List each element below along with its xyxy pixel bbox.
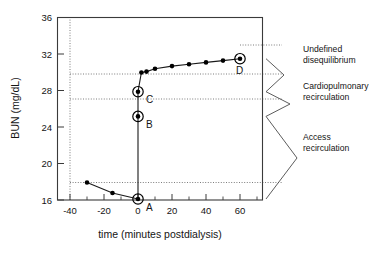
x-tick-label-0: 0 [135, 205, 140, 216]
marker-label-a: A [146, 202, 153, 213]
bracket-access-recirculation [266, 116, 297, 199]
y-tick-label-24: 24 [41, 122, 52, 133]
x-tick-label-minus40: -40 [63, 205, 77, 216]
annotation-undefined-disequilibrium-line1: Undefined [303, 44, 342, 54]
annotation-brackets [266, 59, 297, 199]
plot-frame [58, 18, 263, 201]
y-tick-label-32: 32 [41, 49, 52, 60]
y-axis-title: BUN (mg/dL) [9, 77, 21, 138]
marked-point-d: D [235, 54, 245, 77]
annotation-access-recirculation-line2: recirculation [303, 143, 350, 153]
y-axis-ticks [58, 18, 65, 201]
marker-label-c: C [146, 94, 153, 105]
x-tick-label-minus20: -20 [97, 205, 111, 216]
x-axis-ticks [70, 194, 257, 200]
guide-lines [70, 17, 282, 200]
annotation-access-recirculation-line1: Access [303, 132, 331, 142]
y-tick-label-36: 36 [41, 12, 52, 23]
data-point-markers [85, 58, 226, 195]
data-point [139, 70, 144, 75]
data-point [221, 58, 226, 63]
marker-dot [136, 89, 141, 94]
highlighted-points: A B C D [133, 54, 245, 214]
data-point [153, 67, 158, 72]
x-axis-tick-labels: -40 -20 0 20 40 60 [63, 205, 245, 216]
annotation-undefined-disequilibrium-line2: disequilibrium [303, 55, 356, 65]
y-axis-tick-labels: 36 32 28 24 20 16 [41, 12, 52, 206]
y-tick-label-20: 20 [41, 158, 52, 169]
annotation-labels: Undefined disequilibrium Cardiopulmonary… [303, 44, 369, 153]
x-tick-label-20: 20 [167, 205, 178, 216]
data-point [85, 180, 90, 185]
marker-dot [136, 114, 141, 119]
chart-figure: 36 32 28 24 20 16 -40 -20 0 20 [0, 0, 381, 256]
annotation-cardiopulmonary-recirculation-line2: recirculation [303, 92, 350, 102]
data-point [170, 64, 175, 69]
marker-label-b: B [146, 119, 153, 130]
series-postdialysis-rebound-line [138, 59, 240, 199]
marked-point-c: C [133, 87, 153, 106]
bracket-cardiopulmonary-recirculation [266, 92, 290, 117]
x-axis-title: time (minutes postdialysis) [98, 228, 222, 240]
y-tick-label-16: 16 [41, 195, 52, 206]
x-tick-label-60: 60 [235, 205, 246, 216]
x-tick-label-40: 40 [201, 205, 212, 216]
marker-label-d: D [236, 65, 243, 76]
data-point [144, 69, 149, 74]
chart-svg: 36 32 28 24 20 16 -40 -20 0 20 [0, 0, 381, 256]
data-point [204, 60, 209, 65]
annotation-cardiopulmonary-recirculation-line1: Cardiopulmonary [303, 81, 369, 91]
y-tick-label-28: 28 [41, 85, 52, 96]
marked-point-b: B [133, 111, 153, 130]
marker-dot [136, 197, 141, 202]
data-point [187, 62, 192, 67]
data-point [110, 191, 115, 196]
bracket-undefined-disequilibrium [266, 59, 284, 92]
marker-dot [238, 56, 243, 61]
